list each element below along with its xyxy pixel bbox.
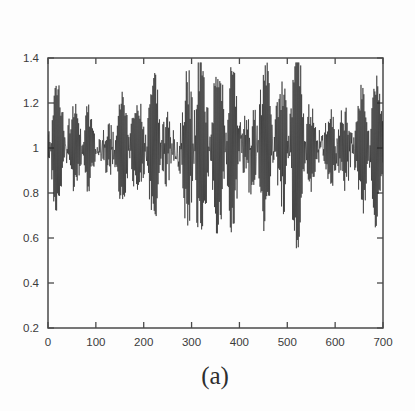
figure-caption: (a) [201,362,229,390]
x-tick-label: 600 [326,336,345,348]
figure-page: 0.20.40.60.811.21.4 01002003004005006007… [0,0,415,411]
x-tick-label: 300 [182,336,201,348]
y-tick-label: 0.4 [23,277,40,289]
figure-background [0,0,415,411]
y-tick-label: 1.4 [23,52,40,64]
x-tick-label: 200 [134,336,153,348]
x-tick-label: 700 [373,336,392,348]
x-tick-label: 400 [230,336,249,348]
chart-figure: 0.20.40.60.811.21.4 01002003004005006007… [0,0,415,411]
x-tick-label: 100 [86,336,105,348]
x-tick-label: 500 [278,336,297,348]
y-tick-label: 0.2 [23,322,39,334]
y-tick-label: 0.6 [23,232,39,244]
y-tick-label: 0.8 [23,187,39,199]
y-tick-label: 1 [33,142,39,154]
y-tick-label: 1.2 [23,97,39,109]
x-tick-label: 0 [45,336,51,348]
